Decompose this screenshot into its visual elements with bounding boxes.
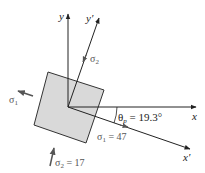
- angle-label: θp = 19.3°: [118, 111, 162, 125]
- sigma2-value-label: σ2 = 17: [55, 157, 85, 170]
- sigma2-bottom-arrow: [50, 148, 54, 166]
- angle-arc: [114, 107, 117, 123]
- sigma1-left-label: σ1: [9, 94, 18, 107]
- x-axis-label: x: [191, 110, 197, 122]
- principal-stress-diagram: y y′ x x′ σ2 σ1 σ1 = 47 σ2 = 17 θp = 19.…: [0, 0, 205, 173]
- y-prime-axis-label: y′: [85, 12, 94, 24]
- x-prime-axis-label: x′: [182, 151, 191, 163]
- sigma2-top-label: σ2: [90, 53, 99, 66]
- y-axis-label: y: [58, 10, 64, 22]
- sigma1-value-label: σ1 = 47: [97, 131, 127, 144]
- sigma1-left-arrow: [18, 91, 33, 96]
